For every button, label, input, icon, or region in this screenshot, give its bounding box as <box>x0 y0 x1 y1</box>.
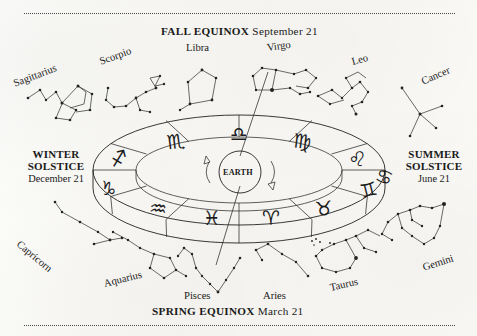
glyph-taurus: ♉ <box>314 196 334 222</box>
glyph-pisces: ♓ <box>203 206 221 230</box>
constellation-gemini <box>381 202 446 245</box>
constellation-taurus <box>311 229 380 273</box>
constellation-aries <box>255 243 310 278</box>
glyph-virgo: ♍ <box>292 129 313 155</box>
constellation-label-libra: Libra <box>186 42 209 54</box>
winter-solstice-line2: SOLSTICE <box>12 160 100 172</box>
glyph-aquarius: ♒ <box>148 196 168 222</box>
constellation-libra <box>179 69 218 112</box>
spring-equinox-date: March 21 <box>258 305 304 317</box>
constellation-sagittarius <box>27 85 94 122</box>
fall-equinox-date: September 21 <box>252 25 317 37</box>
spring-equinox-label: SPRING EQUINOX March 21 <box>152 305 303 318</box>
constellation-pisces <box>177 247 242 294</box>
glyph-libra: ♎ <box>230 122 248 146</box>
summer-solstice-line1: SUMMER <box>392 148 476 160</box>
spring-equinox-name: SPRING EQUINOX <box>152 305 255 317</box>
glyph-aries: ♈ <box>262 206 280 230</box>
glyph-scorpio: ♏ <box>165 129 186 155</box>
constellation-label-pisces: Pisces <box>184 290 210 302</box>
winter-solstice-date: December 21 <box>12 173 100 185</box>
constellation-cancer <box>401 87 444 138</box>
summer-solstice-date: June 21 <box>392 173 476 185</box>
glyph-capricorn: ♑ <box>97 176 119 201</box>
fall-equinox-name: FALL EQUINOX <box>161 25 249 37</box>
constellation-capricorn <box>54 201 124 246</box>
earth-label: EARTH <box>223 168 253 177</box>
winter-solstice-line1: WINTER <box>12 148 100 160</box>
winter-solstice-label: WINTER SOLSTICE December 21 <box>12 148 100 184</box>
constellation-label-aries: Aries <box>263 290 286 302</box>
glyph-sagittarius: ♐ <box>107 145 130 173</box>
constellation-scorpio <box>105 75 165 113</box>
fall-equinox-label: FALL EQUINOX September 21 <box>161 25 318 38</box>
summer-solstice-label: SUMMER SOLSTICE June 21 <box>392 148 476 184</box>
summer-solstice-line2: SOLSTICE <box>392 160 476 172</box>
zodiac-seasons-diagram: ♐ ♏ ♎ ♍ ♌ ♋ ♑ ♒ ♓ ♈ ♉ ♊ <box>0 0 477 336</box>
constellation-leo <box>317 72 369 116</box>
